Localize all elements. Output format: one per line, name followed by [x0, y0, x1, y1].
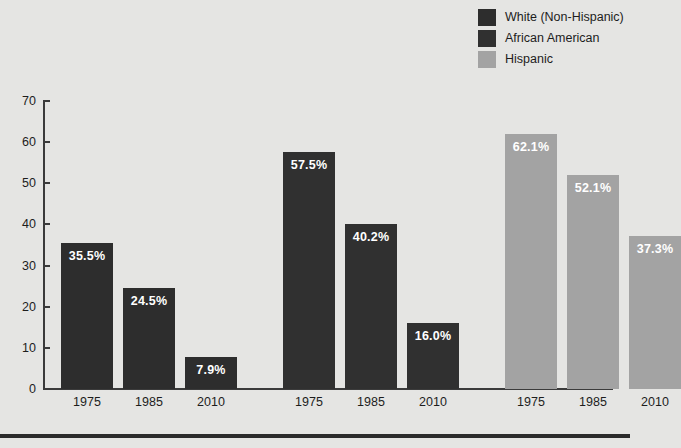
bar-value-label: 16.0%: [407, 330, 459, 343]
bar: 24.5%: [123, 288, 175, 389]
bar: 52.1%: [567, 175, 619, 389]
x-tick-label: 2010: [629, 396, 681, 409]
x-tick-label: 1985: [567, 396, 619, 409]
bar-value-label: 62.1%: [505, 141, 557, 154]
x-tick-label: 1985: [345, 396, 397, 409]
legend-item-hispanic: Hispanic: [478, 51, 624, 68]
bar-value-label: 37.3%: [629, 243, 681, 256]
bar-value-label: 40.2%: [345, 231, 397, 244]
legend-item-white-non-hispanic: White (Non-Hispanic): [478, 9, 624, 26]
legend-label-white-non-hispanic: White (Non-Hispanic): [505, 11, 624, 24]
bar: 62.1%: [505, 134, 557, 389]
bar-value-label: 7.9%: [185, 364, 237, 377]
x-tick-label: 1975: [283, 396, 335, 409]
bar: 35.5%: [61, 243, 113, 389]
y-tick-label: 40: [2, 218, 36, 231]
legend-swatch-icon-african-american: [478, 30, 496, 47]
chart-legend: White (Non-Hispanic) African American Hi…: [478, 9, 624, 68]
legend-swatch-icon-white-non-hispanic: [478, 9, 496, 26]
bar: 16.0%: [407, 323, 459, 389]
legend-label-african-american: African American: [505, 32, 599, 45]
bar-value-label: 24.5%: [123, 295, 175, 308]
x-tick-label: 1985: [123, 396, 175, 409]
bar: 40.2%: [345, 224, 397, 389]
bar: 37.3%: [629, 236, 681, 389]
x-tick-label: 2010: [185, 396, 237, 409]
legend-item-african-american: African American: [478, 30, 624, 47]
x-tick-label: 1975: [505, 396, 557, 409]
y-tick-label: 60: [2, 136, 36, 149]
y-tick-label: 20: [2, 301, 36, 314]
legend-label-hispanic: Hispanic: [505, 53, 553, 66]
y-tick-label: 70: [2, 95, 36, 108]
plot-area: 35.5%24.5%7.9%57.5%40.2%16.0%62.1%52.1%3…: [43, 101, 613, 389]
bar: 57.5%: [283, 152, 335, 389]
bar-value-label: 52.1%: [567, 182, 619, 195]
y-tick-label: 50: [2, 177, 36, 190]
legend-swatch-icon-hispanic: [478, 51, 496, 68]
y-tick-label: 30: [2, 260, 36, 273]
x-tick-label: 2010: [407, 396, 459, 409]
bar: 7.9%: [185, 357, 237, 390]
y-tick-label: 10: [2, 342, 36, 355]
footer-divider: [0, 434, 630, 438]
x-tick-label: 1975: [61, 396, 113, 409]
y-tick-label: 0: [2, 383, 36, 396]
bar-value-label: 57.5%: [283, 159, 335, 172]
bar-value-label: 35.5%: [61, 250, 113, 263]
